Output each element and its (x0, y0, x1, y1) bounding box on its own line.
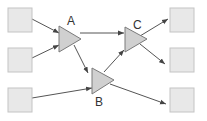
edge-in2-A (32, 45, 59, 58)
label-a: A (67, 14, 75, 28)
label-c: C (133, 18, 142, 32)
edge-in1-A (32, 19, 59, 33)
edge-C-out2 (140, 44, 165, 64)
output-box-1 (170, 8, 194, 32)
edge-A-B (74, 45, 88, 73)
triangle-node-b (92, 68, 114, 94)
network-diagram: A C B (0, 0, 207, 121)
triangle-node-a (59, 26, 81, 52)
edge-B-C (104, 50, 124, 72)
label-b: B (95, 95, 103, 109)
output-box-2 (170, 48, 194, 72)
input-box-2 (8, 48, 32, 72)
input-box-3 (8, 88, 32, 112)
input-box-1 (8, 8, 32, 32)
edge-C-out1 (140, 19, 168, 36)
edge-B-out3 (110, 84, 166, 104)
edge-in3-B (32, 88, 92, 98)
edges (32, 19, 168, 104)
output-box-3 (170, 88, 194, 112)
